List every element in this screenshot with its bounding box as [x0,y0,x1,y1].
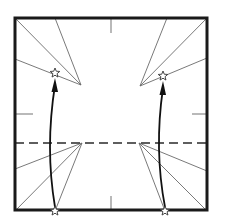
lower-right-crease-0 [139,143,207,211]
left-fold-arrow-head-icon [52,78,59,92]
right-fold-arrow-head-icon [160,81,167,95]
crease-lines [15,18,207,211]
star-upper-right-icon [158,71,168,80]
star-lower-right-icon [160,206,170,215]
origami-diagram [0,0,225,223]
right-fold-arrow [159,88,165,207]
upper-left-crease-2 [15,59,81,85]
lower-right-crease-2 [139,143,207,171]
left-fold-arrow [50,85,55,207]
reference-stars [50,68,170,215]
upper-right-crease-2 [140,58,207,86]
upper-left-crease-0 [15,18,81,85]
lower-left-crease-1 [55,143,82,211]
lower-left-crease-2 [15,143,82,169]
star-lower-left-icon [50,206,60,215]
lower-left-crease-0 [15,143,82,211]
upper-left-crease-1 [55,18,81,85]
upper-right-crease-0 [140,18,207,86]
